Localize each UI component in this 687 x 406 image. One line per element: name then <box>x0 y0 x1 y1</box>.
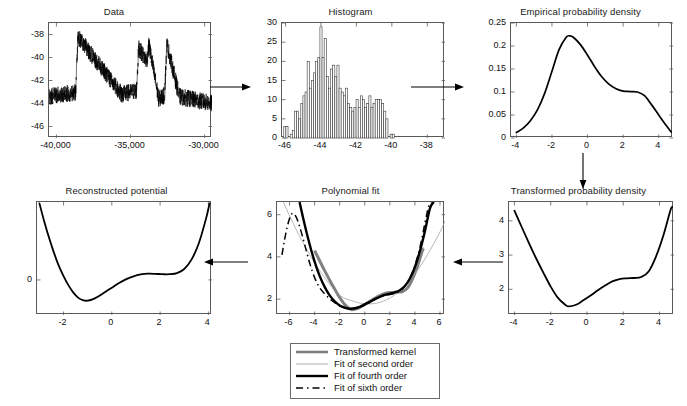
transformed-probability-density-ytick-label: 4 <box>466 215 504 225</box>
empirical-probability-density-ytick-label: 0.1 <box>468 86 506 96</box>
panel-polynomial-fit: Polynomial fit Transformed kernel Fit of… <box>248 185 453 405</box>
transformed-density-curve <box>509 202 674 315</box>
histogram-bar <box>316 61 318 138</box>
data-ytick-label: -46 <box>6 121 44 131</box>
data-ytick-label: -42 <box>6 75 44 85</box>
histogram-bar <box>299 119 301 138</box>
empirical-probability-density-xtick-label: 4 <box>655 140 660 150</box>
legend-label-fourth-order: Fit of fourth order <box>334 370 407 382</box>
empirical-probability-density-ytick-label: 0.2 <box>468 40 506 50</box>
arrow-data-to-histogram <box>209 80 253 94</box>
transformed-probability-density-xtick-label: -4 <box>509 317 517 327</box>
reconstructed-potential-ytick-label: 0 <box>0 274 32 284</box>
histogram-ytick-label: 5 <box>239 113 277 123</box>
histogram-bar <box>305 92 307 138</box>
legend-item-transformed-kernel: Transformed kernel <box>294 346 435 358</box>
histogram-bar <box>362 100 364 138</box>
histogram-bar <box>292 130 294 138</box>
histogram-bar <box>324 38 326 138</box>
empirical-probability-density-xtick-label: -2 <box>547 140 555 150</box>
polynomial-fit-xtick-label: 0 <box>361 317 366 327</box>
transformed-probability-density-ytick-label: 2 <box>466 283 504 293</box>
histogram-xtick-label: -38 <box>420 140 433 150</box>
histogram-ytick-label: 30 <box>239 17 277 27</box>
data-ytick-label: -38 <box>6 29 44 39</box>
histogram-bar <box>369 96 371 138</box>
polynomial-fit-legend: Transformed kernel Fit of second order F… <box>290 343 440 399</box>
histogram-bar <box>367 104 369 139</box>
histogram-bar <box>379 100 381 138</box>
transformed-probability-density-xtick-label: 2 <box>620 317 625 327</box>
empirical-probability-density-xtick-label: -4 <box>511 140 519 150</box>
reconstructed-potential-xtick-label: 2 <box>157 317 162 327</box>
polynomial-fit-series-line <box>300 202 434 309</box>
histogram-xtick-label: -44 <box>313 140 326 150</box>
histogram-bar <box>350 107 352 138</box>
panel-histogram-title: Histogram <box>248 6 453 17</box>
histogram-bar <box>375 100 377 138</box>
legend-item-second-order: Fit of second order <box>294 358 435 370</box>
histogram-bar <box>377 100 379 138</box>
histogram-bar <box>365 107 367 138</box>
histogram-xtick-label: -46 <box>278 140 291 150</box>
histogram-bar <box>331 69 333 138</box>
empirical-probability-density-ytick-label: 0.15 <box>468 63 506 73</box>
histogram-bar <box>311 81 313 139</box>
polynomial-fit-xtick-label: -4 <box>310 317 318 327</box>
histogram-bar <box>358 107 360 138</box>
histogram-bar <box>341 92 343 138</box>
histogram-ytick-label: 25 <box>239 36 277 46</box>
histogram-bar <box>294 111 296 138</box>
histogram-bar <box>356 100 358 138</box>
transformed-probability-density-xtick-label: 0 <box>583 317 588 327</box>
histogram-bar <box>333 65 335 138</box>
histogram-bar <box>307 61 309 138</box>
empirical-probability-density-ytick-label: 0.05 <box>468 109 506 119</box>
reconstructed-potential-xtick-label: 0 <box>108 317 113 327</box>
polynomial-fit-xtick-label: 2 <box>386 317 391 327</box>
histogram-bar <box>360 96 362 138</box>
panel-reconstructed-potential-plot-area <box>36 201 211 314</box>
legend-label-sixth-order: Fit of sixth order <box>334 382 402 394</box>
polynomial-fit-xtick-label: 4 <box>411 317 416 327</box>
legend-line-thin-gray <box>294 358 330 370</box>
reconstructed-potential-xtick-label: 4 <box>205 317 210 327</box>
reconstructed-potential-curve <box>37 202 212 315</box>
histogram-bar <box>335 77 337 138</box>
histogram-bar <box>301 104 303 139</box>
data-xtick-label: -35,000 <box>114 140 145 150</box>
data-xtick-label: -30,000 <box>188 140 219 150</box>
arrow-transformed-to-polynomial <box>452 255 504 269</box>
panel-reconstructed-potential: Reconstructed potential -20240 <box>14 185 219 340</box>
reconstructed-potential-xtick-label: -2 <box>59 317 67 327</box>
histogram-bar <box>348 104 350 139</box>
polynomial-fit-curves <box>277 202 445 315</box>
panel-data: Data -40,000-35,000-30,000-46-44-42-40-3… <box>14 6 214 161</box>
panel-transformed-density-plot-area <box>508 201 673 314</box>
histogram-bar <box>303 96 305 138</box>
histogram-bar <box>345 88 347 138</box>
arrow-polynomial-to-reconstructed <box>203 255 249 269</box>
legend-item-sixth-order: Fit of sixth order <box>294 382 435 394</box>
data-timeseries-curve <box>49 23 212 138</box>
empirical-density-curve <box>511 23 673 138</box>
data-xtick-label: -40,000 <box>40 140 71 150</box>
empirical-probability-density-ytick-label: 0 <box>468 132 506 142</box>
histogram-bar <box>384 111 386 138</box>
histogram-bar <box>354 107 356 138</box>
legend-line-thick-black <box>294 370 330 382</box>
arrow-histogram-to-empirical <box>410 80 466 94</box>
histogram-ytick-label: 20 <box>239 55 277 65</box>
empirical-probability-density-xtick-label: 2 <box>620 140 625 150</box>
legend-label-second-order: Fit of second order <box>334 358 413 370</box>
histogram-bar <box>284 127 286 139</box>
reconstructed-potential-line <box>39 203 209 300</box>
polynomial-fit-xtick-label: -2 <box>335 317 343 327</box>
histogram-bar <box>339 88 341 138</box>
histogram-bar <box>382 104 384 139</box>
transformed-probability-density-xtick-label: 4 <box>656 317 661 327</box>
histogram-xtick-label: -42 <box>349 140 362 150</box>
histogram-bar <box>328 88 330 138</box>
histogram-bar <box>322 58 324 139</box>
histogram-xtick-label: -40 <box>384 140 397 150</box>
